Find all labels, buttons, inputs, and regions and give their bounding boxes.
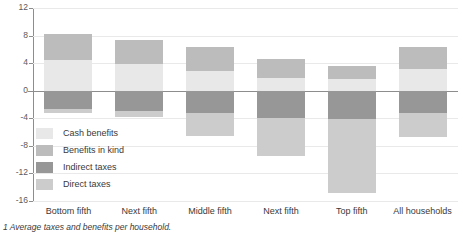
legend-label-benefits-in-kind: Benefits in kind (63, 145, 124, 156)
y-tick-label: 0 (4, 86, 28, 95)
y-tick-label: 8 (4, 31, 28, 40)
bar-segment (328, 119, 376, 193)
legend-swatch-direct-taxes (36, 179, 53, 190)
gridline (33, 201, 458, 202)
chart-footnote: 1 Average taxes and benefits per househo… (3, 222, 171, 232)
y-tick-label: -16 (4, 196, 28, 205)
y-tick-label: -4 (4, 113, 28, 122)
stacked-bar-chart: 12840-4-8-12-16 Bottom fifthNext fifthMi… (0, 0, 463, 237)
bar-segment (399, 113, 447, 136)
bar-segment (44, 109, 92, 114)
bar-segment (115, 111, 163, 117)
legend-label-cash-benefits: Cash benefits (63, 128, 118, 139)
y-tick-label-wrap: 4 (0, 58, 28, 68)
y-tick-label-wrap: 0 (0, 86, 28, 96)
bar-segment (44, 34, 92, 61)
bar-segment (186, 71, 234, 90)
y-tick-label-wrap: 8 (0, 31, 28, 41)
bar-segment (399, 47, 447, 69)
y-tick-label: 12 (4, 3, 28, 12)
legend-swatch-benefits-in-kind (36, 145, 53, 156)
bar-segment (44, 91, 92, 109)
bar-segment (328, 66, 376, 79)
y-tick-label-wrap: 12 (0, 3, 28, 13)
bar-segment (328, 79, 376, 91)
bar-segment (186, 113, 234, 135)
bar-group (328, 8, 376, 201)
y-tick-label-wrap: -8 (0, 141, 28, 151)
bar-group (186, 8, 234, 201)
bar-segment (328, 91, 376, 119)
bar-segment (399, 91, 447, 114)
bar-group (399, 8, 447, 201)
legend-label-direct-taxes: Direct taxes (63, 179, 111, 190)
bar-segment (115, 91, 163, 111)
y-tick-label-wrap: -4 (0, 113, 28, 123)
bar-group (257, 8, 305, 201)
bar-segment (115, 40, 163, 64)
bar-segment (257, 91, 305, 118)
bar-segment (257, 118, 305, 156)
bar-segment (257, 59, 305, 78)
bar-segment (115, 64, 163, 91)
bar-segment (186, 91, 234, 114)
legend-swatch-indirect-taxes (36, 162, 53, 173)
bar-segment (186, 47, 234, 72)
legend-swatch-cash-benefits (36, 128, 53, 139)
x-tick-label: All households (373, 206, 463, 216)
y-tick-label: 4 (4, 58, 28, 67)
bar-segment (399, 69, 447, 91)
y-tick-label-wrap: -16 (0, 196, 28, 206)
y-tick-label: -8 (4, 141, 28, 150)
y-tick-label: -12 (4, 168, 28, 177)
y-tick-label-wrap: -12 (0, 168, 28, 178)
y-tick-mark (29, 201, 33, 202)
bar-segment (257, 78, 305, 90)
bar-group (115, 8, 163, 201)
bar-segment (44, 60, 92, 90)
legend-label-indirect-taxes: Indirect taxes (63, 162, 117, 173)
